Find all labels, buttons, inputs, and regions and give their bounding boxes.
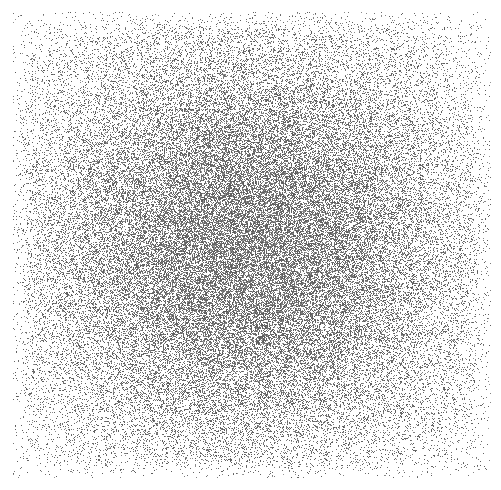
image-canvas-stage xyxy=(0,0,501,490)
stipple-noise-field xyxy=(0,0,501,490)
